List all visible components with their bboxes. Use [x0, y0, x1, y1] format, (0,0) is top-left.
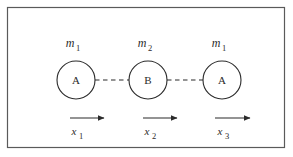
mass-label-1-symbol: m	[66, 36, 75, 50]
mass-label-2-subscript: 2	[148, 43, 152, 53]
mass-label-2-symbol: m	[138, 36, 147, 50]
coord-label-2-subscript: 2	[152, 131, 156, 141]
coord-label-1-symbol: x	[71, 125, 77, 137]
figure-container: A B A m 1 m 2 m 1 x 1	[0, 0, 293, 157]
mass-label-1-subscript: 1	[76, 43, 80, 53]
mass-letter-3: A	[218, 74, 226, 86]
coord-label-3-subscript: 3	[225, 131, 229, 141]
physics-diagram: A B A m 1 m 2 m 1 x 1	[0, 0, 293, 157]
mass-letter-1: A	[72, 74, 80, 86]
mass-letter-2: B	[144, 74, 151, 86]
mass-label-3-symbol: m	[212, 36, 221, 50]
coord-label-2-symbol: x	[144, 125, 150, 137]
coord-label-1-subscript: 1	[79, 131, 83, 141]
coord-label-3-symbol: x	[217, 125, 223, 137]
mass-label-3-subscript: 1	[222, 43, 226, 53]
